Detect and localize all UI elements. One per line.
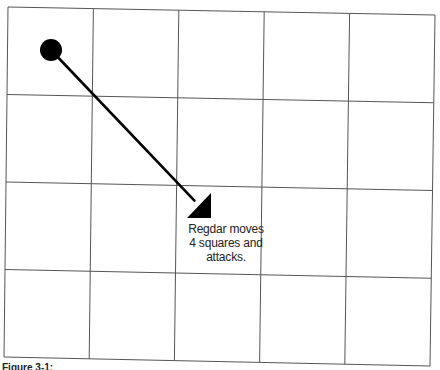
figure-caption: Figure 3-1: bbox=[2, 363, 53, 370]
battle-grid bbox=[4, 7, 435, 366]
grid-line-horizontal bbox=[5, 270, 431, 279]
grid-line-horizontal bbox=[8, 7, 435, 15]
regdar-token-icon bbox=[40, 39, 62, 61]
grid-line-horizontal bbox=[7, 95, 434, 103]
annotation-line-2: 4 squares and bbox=[170, 236, 282, 250]
movement-annotation: Regdar moves 4 squares and attacks. bbox=[170, 222, 282, 264]
grid-line-horizontal bbox=[6, 182, 433, 191]
annotation-line-3: attacks. bbox=[170, 250, 282, 264]
movement-arrow-shaft bbox=[51, 50, 194, 201]
annotation-line-1: Regdar moves bbox=[170, 222, 282, 236]
movement-grid-diagram bbox=[0, 0, 440, 370]
grid-line-horizontal bbox=[4, 357, 430, 366]
